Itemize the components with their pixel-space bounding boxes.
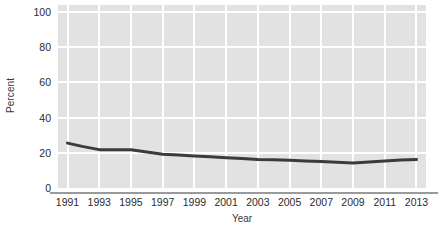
x-axis-tick-label: 2003 <box>246 196 269 208</box>
y-axis-tick-label: 20 <box>39 147 51 159</box>
x-axis-tick-label: 1999 <box>183 196 206 208</box>
y-axis-tick-label: 40 <box>39 112 51 124</box>
percent-series-polyline <box>68 143 417 163</box>
x-axis-tick-label: 1991 <box>56 196 79 208</box>
x-axis-tick-labels: 1991199319951997199920012003200520072009… <box>0 196 442 212</box>
x-axis-tick-label: 2013 <box>405 196 428 208</box>
x-axis-tick-label: 1995 <box>119 196 142 208</box>
y-axis-tick-label: 60 <box>39 76 51 88</box>
x-axis-title-label: Year <box>232 213 252 224</box>
x-axis-tick-label: 2001 <box>214 196 237 208</box>
x-axis-tick-label: 2007 <box>310 196 333 208</box>
x-axis-tick-label: 2011 <box>373 196 396 208</box>
x-axis-tick-label: 2009 <box>341 196 364 208</box>
y-axis-tick-label: 100 <box>33 6 51 18</box>
y-axis-tick-label: 80 <box>39 41 51 53</box>
y-axis-tick-labels: 020406080100 <box>22 0 55 195</box>
x-axis-rule <box>50 192 438 194</box>
x-axis-tick-label: 1993 <box>88 196 111 208</box>
line-chart: Percent 020406080100 1991199319951997199… <box>0 0 442 236</box>
plot-area <box>58 5 426 188</box>
x-axis-tick-label: 2005 <box>278 196 301 208</box>
y-axis-title-label: Percent <box>6 77 17 112</box>
data-series-line <box>58 5 426 188</box>
y-axis-title: Percent <box>0 0 22 190</box>
x-axis-title: Year <box>58 213 426 224</box>
x-axis-tick-label: 1997 <box>151 196 174 208</box>
